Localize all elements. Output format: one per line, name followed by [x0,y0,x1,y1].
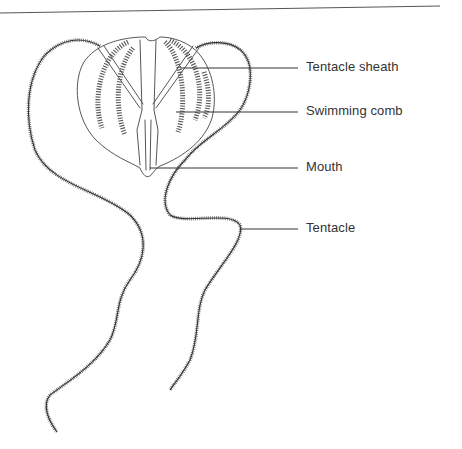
label-tentacle-sheath: Tentacle sheath [306,59,399,74]
label-mouth: Mouth [306,159,343,174]
label-tentacle: Tentacle [306,220,355,235]
tentacle-left [28,40,143,432]
tentacle-right [165,43,250,390]
top-rule [0,6,440,13]
label-swimming-comb: Swimming comb [306,103,403,118]
body [77,37,214,177]
swimming-combs [98,40,209,135]
